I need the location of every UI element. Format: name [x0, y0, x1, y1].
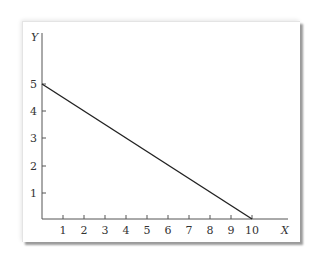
- x-tick-label: 10: [245, 224, 259, 237]
- x-tick-label: 9: [228, 224, 235, 237]
- line-chart: Y X 1 2 3 4 5 6 7 8 9 10 1 2 3 4 5: [0, 0, 312, 254]
- y-tick-label: 2: [30, 160, 37, 173]
- x-tick-label: 1: [60, 224, 67, 237]
- x-tick-label: 7: [186, 224, 193, 237]
- x-axis-label: X: [280, 224, 290, 237]
- x-tick-label: 5: [144, 224, 151, 237]
- x-tick-label: 2: [81, 224, 88, 237]
- y-axis-label: Y: [31, 31, 40, 44]
- x-tick-label: 8: [207, 224, 214, 237]
- y-tick-label: 4: [30, 105, 37, 118]
- x-tick-label: 6: [165, 224, 172, 237]
- y-tick-labels: 1 2 3 4 5: [30, 78, 37, 200]
- x-tick-labels: 1 2 3 4 5 6 7 8 9 10: [60, 224, 260, 237]
- y-tick-label: 3: [30, 132, 37, 145]
- x-tick-label: 3: [102, 224, 109, 237]
- y-tick-label: 1: [30, 187, 37, 200]
- data-line: [42, 84, 252, 219]
- x-tick-label: 4: [123, 224, 130, 237]
- y-tick-label: 5: [30, 78, 37, 91]
- x-ticks: [63, 215, 252, 219]
- y-ticks: [42, 84, 46, 193]
